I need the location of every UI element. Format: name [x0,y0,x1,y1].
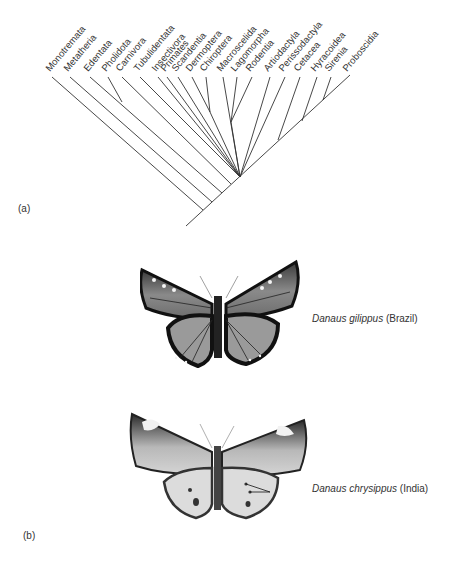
tree-branches [52,75,350,226]
species-name: Danaus gilippus [312,313,383,324]
panel-a-label: (a) [18,203,30,214]
species-name: Danaus chrysippus [312,483,397,494]
butterfly-danaus-gilippus [140,258,300,370]
butterfly-danaus-chrysippus [128,408,308,520]
taxon-labels: MonotremataMetatheriaEdentataPholidotaCa… [43,18,381,73]
caption-danaus-gilippus: Danaus gilippus (Brazil) [312,313,418,324]
panel-b-label: (b) [23,530,35,541]
locality: (India) [400,483,428,494]
phylogenetic-tree: MonotremataMetatheriaEdentataPholidotaCa… [0,0,455,240]
caption-danaus-chrysippus: Danaus chrysippus (India) [312,483,428,494]
locality: (Brazil) [386,313,418,324]
